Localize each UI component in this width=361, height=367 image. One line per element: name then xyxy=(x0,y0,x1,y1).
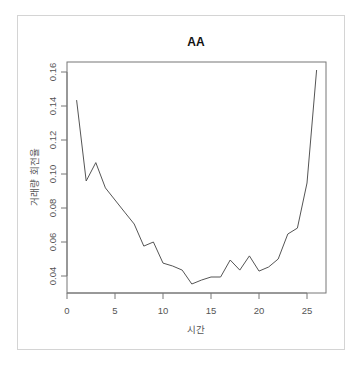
y-tick-label: 0.08 xyxy=(47,199,58,218)
x-axis: 0510152025 xyxy=(64,293,312,316)
y-axis: 0.040.060.080.100.120.140.16 xyxy=(47,63,67,286)
x-tick-label: 10 xyxy=(158,305,169,316)
chart-title: AA xyxy=(187,35,205,49)
y-tick-label: 0.16 xyxy=(47,63,58,82)
x-tick-label: 20 xyxy=(254,305,265,316)
x-tick-label: 15 xyxy=(206,305,217,316)
y-tick-label: 0.14 xyxy=(47,97,58,116)
y-tick-label: 0.06 xyxy=(47,233,58,252)
x-tick-label: 0 xyxy=(64,305,69,316)
x-axis-label: 시간 xyxy=(187,324,205,335)
data-line xyxy=(77,70,317,284)
y-axis-label: 거래량 회전율 xyxy=(29,148,40,205)
plot-area-box xyxy=(67,62,326,293)
x-tick-label: 25 xyxy=(302,305,313,316)
y-tick-label: 0.10 xyxy=(47,165,58,184)
y-tick-label: 0.12 xyxy=(47,131,58,150)
x-tick-label: 5 xyxy=(112,305,117,316)
y-tick-label: 0.04 xyxy=(47,267,58,286)
line-chart: AA 0510152025 0.040.060.080.100.120.140.… xyxy=(0,0,361,367)
